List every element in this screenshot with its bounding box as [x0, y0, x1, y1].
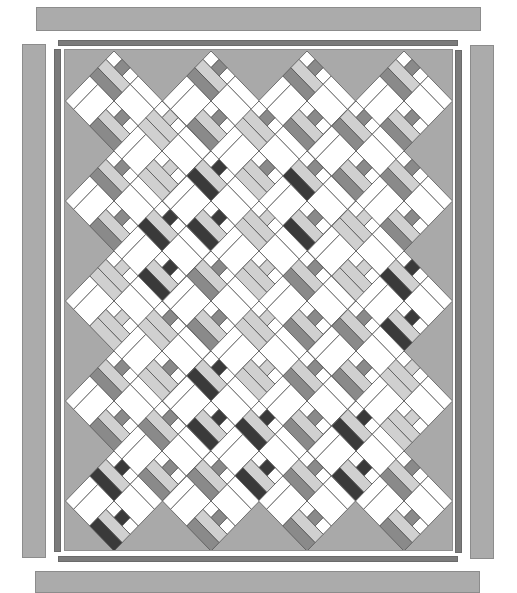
outer-border-top	[36, 7, 481, 31]
outer-border-bottom	[35, 571, 480, 593]
outer-border-left	[22, 44, 46, 558]
inner-border-right	[455, 50, 462, 553]
inner-border-top	[58, 40, 458, 46]
inner-border-left	[54, 49, 61, 552]
quilt-blocks	[65, 50, 453, 551]
quilt-center-panel	[64, 49, 453, 551]
inner-border-bottom	[58, 556, 458, 562]
outer-border-right	[470, 45, 494, 559]
